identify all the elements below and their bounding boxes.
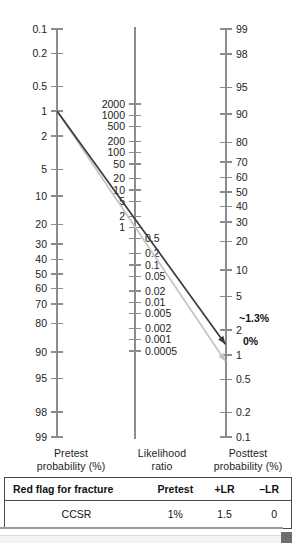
nomogram-plot-area: 0.10.20.5125102030405060708090959899 200… xyxy=(0,0,298,470)
svg-text:0.5: 0.5 xyxy=(236,373,251,385)
svg-text:0.05: 0.05 xyxy=(145,270,166,282)
svg-text:30: 30 xyxy=(35,238,47,250)
svg-text:80: 80 xyxy=(236,136,248,148)
svg-text:200: 200 xyxy=(107,135,125,147)
pretest-axis-title-line2: probability (%) xyxy=(6,460,136,473)
pretest-axis-title: Pretest probability (%) xyxy=(6,447,136,472)
svg-text:40: 40 xyxy=(35,253,47,265)
table-cell-minus-lr: 0 xyxy=(244,501,291,529)
svg-text:50: 50 xyxy=(236,186,248,198)
svg-text:2: 2 xyxy=(41,130,47,142)
svg-text:60: 60 xyxy=(35,282,47,294)
posttest-axis-title-line1: Posttest xyxy=(196,447,298,460)
svg-text:0.01: 0.01 xyxy=(145,296,166,308)
svg-text:95: 95 xyxy=(35,372,47,384)
svg-text:0.2: 0.2 xyxy=(32,47,47,59)
table-body: CCSR 1% 1.5 0 xyxy=(5,501,291,529)
svg-text:98: 98 xyxy=(35,406,47,418)
svg-text:50: 50 xyxy=(113,158,125,170)
svg-text:95: 95 xyxy=(236,81,248,93)
svg-text:60: 60 xyxy=(236,171,248,183)
svg-text:98: 98 xyxy=(236,48,248,60)
svg-text:0.001: 0.001 xyxy=(145,333,171,345)
posttest-axis: 9998959080706050403020105210.50.20.1 xyxy=(220,23,251,443)
svg-text:20: 20 xyxy=(113,172,125,184)
svg-text:0.002: 0.002 xyxy=(145,322,171,334)
svg-text:10: 10 xyxy=(35,190,47,202)
lr-axis-title-line2: ratio xyxy=(118,460,206,473)
svg-text:20: 20 xyxy=(236,235,248,247)
table-cell-condition: CCSR xyxy=(5,501,146,529)
svg-text:30: 30 xyxy=(236,216,248,228)
svg-text:20: 20 xyxy=(35,218,47,230)
svg-text:5: 5 xyxy=(41,163,47,175)
svg-text:0.02: 0.02 xyxy=(145,285,166,297)
pretest-axis-title-line1: Pretest xyxy=(6,447,136,460)
table-cell-plus-lr: 1.5 xyxy=(205,501,245,529)
svg-text:1000: 1000 xyxy=(102,109,126,121)
posttest-axis-title: Posttest probability (%) xyxy=(196,447,298,472)
svg-text:0.2: 0.2 xyxy=(236,406,251,418)
svg-text:70: 70 xyxy=(35,298,47,310)
svg-text:500: 500 xyxy=(107,120,125,132)
nomogram-series-lines xyxy=(57,111,225,361)
lr-axis-title-line1: Likelihood xyxy=(118,447,206,460)
svg-text:50: 50 xyxy=(35,268,47,280)
pretest-axis: 0.10.20.5125102030405060708090959899 xyxy=(32,23,63,443)
svg-text:0.1: 0.1 xyxy=(236,431,251,443)
svg-text:10: 10 xyxy=(113,184,125,196)
svg-text:0.005: 0.005 xyxy=(145,307,171,319)
table-header-cell-plus-lr: +LR xyxy=(205,478,245,501)
svg-text:40: 40 xyxy=(236,200,248,212)
posttest-axis-title-line2: probability (%) xyxy=(196,460,298,473)
svg-text:10: 10 xyxy=(236,264,248,276)
svg-text:0.0005: 0.0005 xyxy=(145,345,177,357)
svg-text:5: 5 xyxy=(236,290,242,302)
fagan-nomogram-figure: 0.10.20.5125102030405060708090959899 200… xyxy=(0,0,298,546)
red-flag-table-element: Red flag for fracture Pretest +LR –LR CC… xyxy=(5,478,291,528)
table-header-row: Red flag for fracture Pretest +LR –LR xyxy=(5,478,291,501)
table-header-cell-condition: Red flag for fracture xyxy=(5,478,146,501)
svg-text:~1.3%: ~1.3% xyxy=(239,312,270,324)
svg-text:1: 1 xyxy=(41,105,47,117)
svg-text:80: 80 xyxy=(35,317,47,329)
svg-text:100: 100 xyxy=(107,146,125,158)
svg-text:1: 1 xyxy=(236,349,242,361)
likelihood-ratio-axis-title: Likelihood ratio xyxy=(118,447,206,472)
table-row: CCSR 1% 1.5 0 xyxy=(5,501,291,529)
svg-text:90: 90 xyxy=(236,108,248,120)
svg-text:1: 1 xyxy=(119,221,125,233)
svg-text:99: 99 xyxy=(236,23,248,35)
table-header-cell-minus-lr: –LR xyxy=(244,478,291,501)
svg-text:2: 2 xyxy=(236,324,242,336)
svg-text:70: 70 xyxy=(236,156,248,168)
nomogram-svg: 0.10.20.5125102030405060708090959899 200… xyxy=(0,0,298,470)
horizontal-scrollbar[interactable] xyxy=(0,531,298,546)
red-flag-table: Red flag for fracture Pretest +LR –LR CC… xyxy=(4,477,292,529)
scrollbar-track[interactable] xyxy=(0,535,283,543)
svg-text:2000: 2000 xyxy=(102,98,126,110)
svg-text:0.5: 0.5 xyxy=(32,80,47,92)
table-cell-pretest: 1% xyxy=(146,501,205,529)
scrollbar-thumb[interactable] xyxy=(281,532,292,543)
table-header: Red flag for fracture Pretest +LR –LR xyxy=(5,478,291,501)
nomogram-annotations: ~1.3%0% xyxy=(239,312,270,347)
page-bottom-edge xyxy=(0,527,283,529)
svg-text:99: 99 xyxy=(35,431,47,443)
svg-text:0.1: 0.1 xyxy=(32,23,47,35)
svg-text:90: 90 xyxy=(35,346,47,358)
svg-text:0%: 0% xyxy=(243,335,259,347)
table-header-cell-pretest: Pretest xyxy=(146,478,205,501)
